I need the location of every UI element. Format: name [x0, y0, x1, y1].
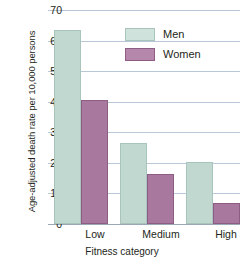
- bar-medium-women[interactable]: [147, 174, 174, 224]
- legend-swatch-men-icon: [125, 28, 155, 41]
- legend-item-women[interactable]: Women: [125, 45, 225, 63]
- bar-high-women[interactable]: [213, 203, 240, 224]
- bar-low-women[interactable]: [81, 100, 108, 224]
- legend-swatch-women-icon: [125, 48, 155, 61]
- x-tick-label-high: High: [215, 228, 237, 240]
- x-axis-title: Fitness category: [0, 246, 244, 257]
- bar-medium-men[interactable]: [120, 143, 147, 224]
- legend-label-women: Women: [163, 48, 201, 60]
- bar-low-men[interactable]: [54, 30, 81, 224]
- gridline-0-baseline: [48, 224, 240, 225]
- legend: Men Women: [125, 25, 225, 65]
- legend-item-men[interactable]: Men: [125, 25, 225, 43]
- y-axis-title: Age-adjusted death rate per 10,000 perso…: [26, 17, 37, 227]
- x-tick-label-medium: Medium: [142, 228, 179, 240]
- bar-chart: Age-adjusted death rate per 10,000 perso…: [0, 0, 244, 265]
- bar-high-men[interactable]: [186, 162, 213, 224]
- x-tick-label-low: Low: [85, 228, 104, 240]
- legend-label-men: Men: [163, 28, 184, 40]
